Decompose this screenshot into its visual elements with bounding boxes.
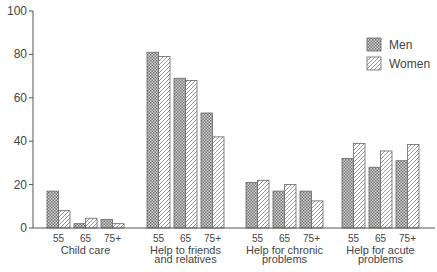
bar-men xyxy=(342,159,354,228)
y-tick-label: 100 xyxy=(7,4,27,18)
y-tick-label: 60 xyxy=(14,91,28,105)
legend-label-women: Women xyxy=(389,57,430,71)
group-label: problems xyxy=(262,253,308,265)
bar-men xyxy=(396,161,408,228)
bar-women xyxy=(213,137,225,228)
legend-swatch-women xyxy=(367,57,381,70)
age-tick-label: 65 xyxy=(375,233,387,244)
y-tick-label: 40 xyxy=(14,134,28,148)
age-tick-label: 75+ xyxy=(399,233,416,244)
age-tick-label: 65 xyxy=(180,233,192,244)
bar-women xyxy=(113,224,125,228)
group-label: Child care xyxy=(61,244,111,256)
age-tick-label: 75+ xyxy=(204,233,221,244)
legend-label-men: Men xyxy=(389,38,412,52)
bar-men xyxy=(273,191,285,228)
age-tick-label: 75+ xyxy=(104,233,121,244)
bar-men xyxy=(74,224,86,228)
bar-women xyxy=(354,143,366,228)
age-tick-label: 65 xyxy=(80,233,92,244)
age-tick-label: 55 xyxy=(252,233,264,244)
bar-men xyxy=(174,78,186,228)
bar-women xyxy=(86,218,98,228)
bar-men xyxy=(369,167,381,228)
age-tick-label: 65 xyxy=(279,233,291,244)
bars xyxy=(47,52,419,228)
bar-men xyxy=(300,191,312,228)
group-label: and relatives xyxy=(154,253,217,265)
age-tick-label: 75+ xyxy=(303,233,320,244)
age-tick-label: 55 xyxy=(53,233,65,244)
bar-women xyxy=(159,57,171,228)
y-tick-label: 80 xyxy=(14,47,28,61)
y-axis: 020406080100 xyxy=(7,4,33,235)
bar-women xyxy=(186,80,198,228)
bar-chart: 020406080100 556575+Child care556575+Hel… xyxy=(0,0,437,272)
bar-men xyxy=(47,191,59,228)
bar-women xyxy=(59,211,71,228)
bar-women xyxy=(408,144,420,228)
y-tick-label: 20 xyxy=(14,178,28,192)
age-tick-label: 55 xyxy=(348,233,360,244)
bar-men xyxy=(147,52,159,228)
bar-men xyxy=(201,113,213,228)
x-axis: 556575+Child care556575+Help to friendsa… xyxy=(33,228,435,265)
bar-women xyxy=(285,185,297,228)
bar-women xyxy=(312,201,324,228)
y-tick-label: 0 xyxy=(20,221,27,235)
legend: MenWomen xyxy=(367,38,430,71)
bar-women xyxy=(258,180,270,228)
legend-swatch-men xyxy=(367,38,381,51)
bar-men xyxy=(246,182,258,228)
bar-men xyxy=(101,219,113,228)
bar-women xyxy=(381,151,393,228)
age-tick-label: 55 xyxy=(153,233,165,244)
group-label: problems xyxy=(358,253,404,265)
